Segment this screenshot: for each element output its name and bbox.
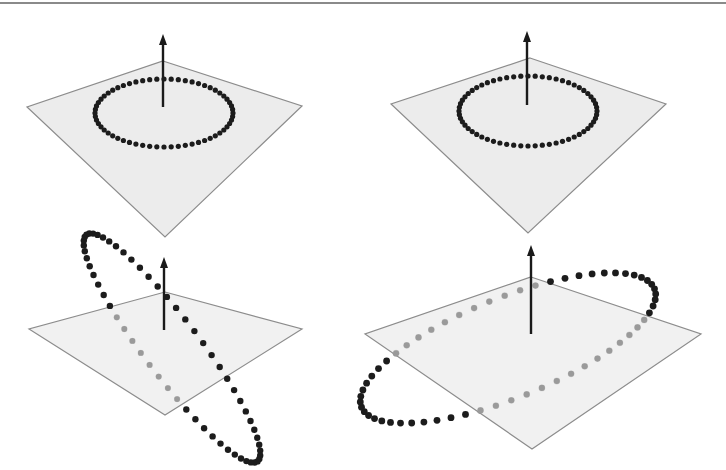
ring-sphere [470, 88, 475, 93]
ring-sphere [155, 283, 161, 289]
ring-sphere [650, 303, 657, 310]
ring-sphere [115, 136, 120, 141]
ring-sphere [462, 411, 469, 418]
ring-sphere [479, 82, 484, 87]
ring-sphere-through-plane [568, 371, 574, 377]
ring-sphere [217, 364, 223, 370]
ring-sphere [201, 425, 207, 431]
ring-sphere [479, 134, 484, 139]
arrow-head-icon [159, 34, 167, 45]
ring-sphere [562, 275, 569, 282]
ring-sphere [230, 107, 235, 112]
ring-sphere [154, 77, 159, 82]
ring-sphere [511, 143, 516, 148]
ring-sphere [202, 83, 207, 88]
ring-sphere-through-plane [393, 350, 399, 356]
ring-sphere [577, 85, 582, 90]
ring-sphere [554, 140, 559, 145]
ring-sphere-through-plane [502, 293, 508, 299]
ring-sphere [169, 144, 174, 149]
ring-sphere [652, 296, 659, 303]
ring-sphere [638, 274, 645, 281]
ring-sphere [485, 137, 490, 142]
ring-sphere [363, 380, 370, 387]
ring-sphere [232, 451, 238, 457]
ring-sphere [247, 418, 253, 424]
ring-sphere [560, 78, 565, 83]
ring-sphere-through-plane [165, 385, 171, 391]
ring-sphere [208, 85, 213, 90]
ring-sphere-through-plane [138, 350, 144, 356]
ring-sphere [90, 272, 96, 278]
ring-sphere [176, 144, 181, 149]
ring-sphere [378, 418, 385, 425]
ring-sphere [622, 270, 629, 277]
ring-sphere [243, 408, 249, 414]
ring-sphere-through-plane [508, 397, 514, 403]
ring-sphere [208, 136, 213, 141]
ring-sphere [572, 134, 577, 139]
ring-sphere [225, 447, 231, 453]
ring-sphere [594, 105, 599, 110]
ring-sphere [612, 270, 619, 277]
ring-sphere [110, 88, 115, 93]
ring-sphere-through-plane [554, 378, 560, 384]
ring-sphere [474, 132, 479, 137]
ring-sphere [191, 328, 197, 334]
ring-sphere [547, 142, 552, 147]
ring-sphere [368, 373, 375, 380]
ring-sphere [540, 143, 545, 148]
ring-sphere [173, 305, 179, 311]
ring-sphere-through-plane [130, 338, 136, 344]
ring-sphere [120, 249, 126, 255]
ring-sphere [631, 272, 638, 279]
ring-sphere [82, 248, 88, 254]
ring-sphere [115, 85, 120, 90]
ring-sphere-through-plane [486, 299, 492, 305]
ring-sphere-through-plane [456, 312, 462, 318]
ring-sphere [237, 398, 243, 404]
ring-sphere [140, 78, 145, 83]
ring-sphere-through-plane [626, 332, 632, 338]
ring-sphere [511, 74, 516, 79]
ring-sphere [491, 139, 496, 144]
ring-sphere [525, 143, 530, 148]
ring-sphere [183, 78, 188, 83]
ring-sphere-through-plane [517, 287, 523, 293]
ring-sphere [183, 143, 188, 148]
ring-sphere-through-plane [532, 283, 538, 289]
ring-sphere-through-plane [634, 324, 640, 330]
ring-sphere [491, 78, 496, 83]
ring-sphere [474, 85, 479, 90]
ring-sphere-through-plane [471, 305, 477, 311]
ring-sphere [208, 352, 214, 358]
ring-sphere-through-plane [114, 314, 120, 320]
panel-top-left [27, 34, 302, 237]
ring-sphere [371, 415, 378, 422]
ring-sphere [128, 256, 134, 262]
ring-sphere [106, 238, 112, 244]
ring-sphere [572, 82, 577, 87]
ring-sphere-through-plane [582, 363, 588, 369]
ring-sphere-through-plane [641, 317, 647, 323]
ring-sphere [383, 358, 390, 365]
ring-sphere [504, 142, 509, 147]
ring-sphere-through-plane [477, 407, 483, 413]
ring-sphere [147, 77, 152, 82]
ring-sphere [217, 130, 222, 135]
ring-sphere [497, 76, 502, 81]
ring-sphere [182, 316, 188, 322]
ring-sphere [127, 81, 132, 86]
ring-sphere [121, 138, 126, 143]
square-plane [365, 277, 701, 449]
ring-sphere [576, 272, 583, 279]
ring-sphere [497, 140, 502, 145]
ring-sphere [127, 140, 132, 145]
ring-sphere [202, 138, 207, 143]
ring-sphere [577, 132, 582, 137]
ring-sphere [107, 303, 113, 309]
ring-sphere [196, 140, 201, 145]
ring-sphere-through-plane [539, 385, 545, 391]
ring-sphere [601, 270, 608, 277]
ring-sphere [190, 142, 195, 147]
